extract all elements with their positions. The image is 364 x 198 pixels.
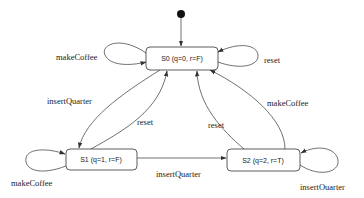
label-s1-s0-reset: reset xyxy=(137,117,154,127)
edge-s0-makecoffee-loop xyxy=(104,43,146,64)
label-s2-s0-reset: reset xyxy=(208,120,225,130)
state-s1-label: S1 (q=1, r=F) xyxy=(80,156,122,164)
label-s1-s2-insertquarter: insertQuarter xyxy=(156,169,201,179)
initial-state-marker xyxy=(177,10,185,46)
label-s1-makecoffee: makeCoffee xyxy=(11,178,53,188)
state-s0: S0 (q=0, r=F) xyxy=(146,47,218,70)
label-s0-makecoffee: makeCoffee xyxy=(56,52,98,62)
state-diagram: S0 (q=0, r=F) S1 (q=1, r=F) S2 (q=2, r=T… xyxy=(0,0,364,198)
edge-s2-insertquarter-loop xyxy=(300,148,338,172)
label-s0-reset: reset xyxy=(264,55,281,65)
state-s1: S1 (q=1, r=F) xyxy=(66,149,137,170)
edge-s2-s0-reset xyxy=(197,71,244,149)
state-s0-label: S0 (q=0, r=F) xyxy=(161,55,203,63)
edge-s0-reset-loop xyxy=(218,46,258,67)
edge-s1-makecoffee-loop xyxy=(26,150,66,171)
edge-s1-s0-reset xyxy=(91,71,167,149)
label-s2-insertquarter: insertOuarter xyxy=(300,182,345,192)
label-s0-s1-insertquarter: insertQuarter xyxy=(47,96,92,106)
label-s2-s0-makecoffee: makeCoffee xyxy=(267,98,309,108)
edge-s2-s0-makecoffee xyxy=(210,70,285,149)
state-s2: S2 (q=2, r=T) xyxy=(227,149,300,171)
state-s2-label: S2 (q=2, r=T) xyxy=(242,157,284,165)
